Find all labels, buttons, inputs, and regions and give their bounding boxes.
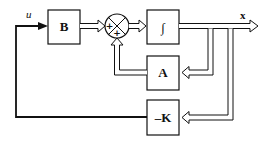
svg-text:–K: –K <box>154 110 173 125</box>
block-a: A <box>147 56 179 90</box>
summing-junction: + + <box>105 14 129 38</box>
svg-text:B: B <box>60 19 69 34</box>
arrow-b-to-sum <box>80 20 105 32</box>
arrow-a-to-sum <box>111 38 147 75</box>
input-label-u: u <box>26 8 32 20</box>
arrow-into-b-icon <box>38 22 48 30</box>
block-integrator: ∫ <box>147 10 179 44</box>
block-diagram: u B + + ∫ x A <box>0 0 271 141</box>
arrow-x-to-a <box>182 29 213 79</box>
state-output-arrow <box>179 20 258 32</box>
svg-text:+: + <box>106 21 114 31</box>
svg-text:+: + <box>113 28 121 38</box>
state-label-x: x <box>240 9 246 21</box>
block-b: B <box>48 10 80 44</box>
svg-text:A: A <box>158 65 168 80</box>
arrow-sum-to-integrator <box>129 20 146 32</box>
block-k: –K <box>147 100 179 135</box>
